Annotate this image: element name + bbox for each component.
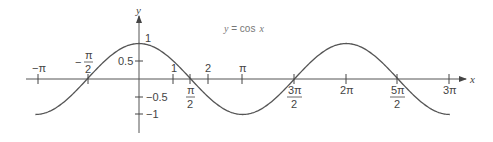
title-eq: = <box>228 23 239 34</box>
svg-text:2: 2 <box>187 98 193 110</box>
x-tick-label-pi: π <box>239 62 247 74</box>
svg-text:π: π <box>187 84 195 96</box>
x-tick-label-three-half-pi: 3π 2 <box>287 84 302 110</box>
y-axis-label: y <box>135 4 141 16</box>
x-tick-label-1: 1 <box>171 62 177 74</box>
x-tick-label-2: 2 <box>205 62 211 74</box>
y-tick-label-1: 1 <box>145 32 151 44</box>
svg-text:2: 2 <box>394 98 400 110</box>
svg-text:−: − <box>75 56 81 68</box>
title-fn: cos <box>240 23 256 34</box>
x-tick-label-neg-pi: −π <box>32 62 46 74</box>
y-tick-label-neg-1: −1 <box>146 108 159 120</box>
cosine-chart: y x y = cosx 1 0.5 −0.5 −1 −π − π 2 1 π … <box>0 0 493 142</box>
y-tick-label-0.5: 0.5 <box>118 55 133 67</box>
chart-title: y = cosx <box>223 23 264 34</box>
svg-text:2: 2 <box>291 98 297 110</box>
svg-text:3π: 3π <box>288 84 302 96</box>
svg-text:5π: 5π <box>391 84 405 96</box>
svg-text:π: π <box>85 49 93 61</box>
x-tick-label-neg-half-pi: − π 2 <box>75 49 93 75</box>
y-tick-label-neg-0.5: −0.5 <box>146 91 168 103</box>
x-tick-label-three-pi: 3π <box>443 84 457 96</box>
x-tick-label-half-pi: π 2 <box>186 84 195 110</box>
x-tick-label-two-pi: 2π <box>340 84 354 96</box>
title-var: x <box>258 23 264 34</box>
x-axis-label: x <box>469 73 475 85</box>
svg-text:2: 2 <box>85 63 91 75</box>
x-tick-label-five-half-pi: 5π 2 <box>390 84 405 110</box>
